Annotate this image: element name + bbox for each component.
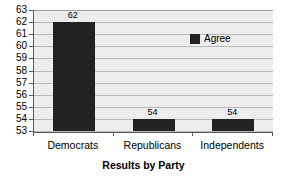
x-tick-label-democrats: Democrats — [33, 139, 113, 151]
y-tick-mark — [29, 119, 33, 120]
y-tick-mark — [29, 107, 33, 108]
legend-label-agree: Agree — [204, 34, 231, 44]
x-tick-mark — [113, 132, 114, 136]
y-tick-mark — [29, 34, 33, 35]
y-tick-mark — [29, 58, 33, 59]
y-tick-label: 53 — [3, 126, 27, 136]
bar-value-label: 62 — [53, 11, 93, 20]
x-tick-mark — [33, 132, 34, 136]
y-tick-label: 54 — [3, 114, 27, 124]
bar-chart: 6362616059585756555453 Agree Results by … — [0, 0, 287, 179]
y-tick-label: 63 — [3, 5, 27, 15]
x-tick-label-republicans: Republicans — [113, 139, 193, 151]
y-tick-mark — [29, 10, 33, 11]
bar-value-label: 54 — [133, 108, 173, 117]
y-tick-label: 56 — [3, 90, 27, 100]
y-tick-mark — [29, 83, 33, 84]
y-tick-label: 62 — [3, 17, 27, 27]
y-tick-label: 59 — [3, 53, 27, 63]
bar-value-label: 54 — [212, 108, 252, 117]
x-tick-mark — [272, 132, 273, 136]
y-axis: 6362616059585756555453 — [0, 0, 27, 179]
bar-democrats — [53, 22, 95, 131]
gridline — [34, 131, 273, 132]
x-axis-title: Results by Party — [0, 159, 287, 171]
y-tick-mark — [29, 46, 33, 47]
y-tick-mark — [29, 71, 33, 72]
y-tick-label: 55 — [3, 102, 27, 112]
y-tick-mark — [29, 95, 33, 96]
x-tick-label-independents: Independents — [192, 139, 272, 151]
y-tick-label: 58 — [3, 66, 27, 76]
y-tick-label: 57 — [3, 78, 27, 88]
bar-republicans — [133, 119, 175, 131]
y-tick-mark — [29, 22, 33, 23]
legend-swatch-agree — [190, 34, 200, 44]
y-tick-label: 60 — [3, 41, 27, 51]
y-tick-label: 61 — [3, 29, 27, 39]
legend: Agree — [190, 34, 231, 44]
bar-independents — [212, 119, 254, 131]
x-tick-mark — [192, 132, 193, 136]
